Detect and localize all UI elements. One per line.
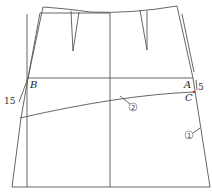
curve-2 [20,92,194,118]
right-offset-label: 5 [198,82,204,92]
point-c-label: C [185,92,193,103]
point-a-label: A [183,79,191,90]
pattern-canvas: B A C 15 5 2 1 [0,0,212,194]
point-c-marker [193,91,196,94]
left-offset-label: 15 [4,96,16,106]
marker-1-leader [193,128,200,133]
waist-curve [43,6,177,12]
marker-2-label: 2 [131,104,135,112]
right-lower-seam [193,78,210,187]
point-b-label: B [29,79,37,90]
right-offset-tick [196,80,197,90]
right-side-seam-inner [182,14,194,72]
right-dart [140,10,147,50]
right-side-seam-outer [177,6,193,78]
marker-2-leader [120,96,130,104]
left-dart [71,11,79,51]
left-side-seam-inner [28,13,40,78]
skirt-pattern-diagram: B A C 15 5 2 1 [0,0,212,194]
marker-1-label: 1 [187,132,191,140]
left-lower-seam [12,118,21,187]
